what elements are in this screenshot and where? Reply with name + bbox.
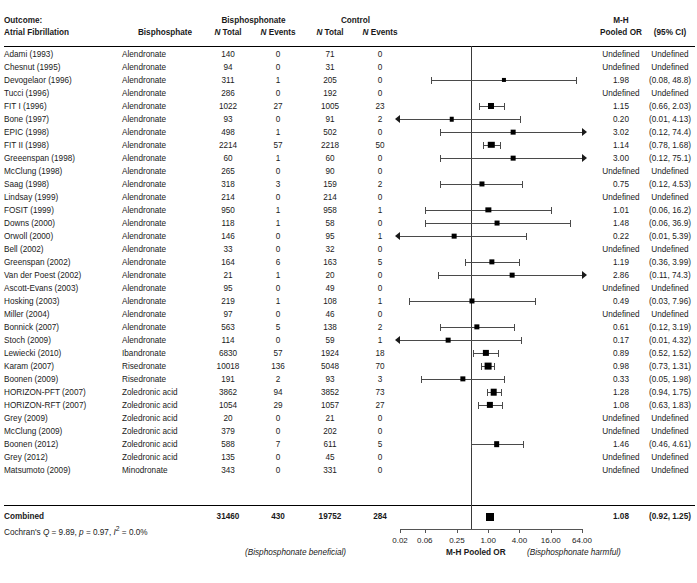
cell-b-events: 0 (254, 89, 302, 99)
cell-or: 1.08 (598, 401, 644, 411)
cell-c-total: 138 (307, 323, 353, 333)
cell-b-total: 1022 (205, 102, 251, 112)
cell-or: 0.98 (598, 362, 644, 372)
effect-estimate-marker (487, 402, 493, 408)
cell-or: 1.28 (598, 388, 644, 398)
forest-row (400, 296, 582, 307)
cell-c-total: 60 (307, 154, 353, 164)
cell-c-events: 0 (356, 414, 404, 424)
summary-effect-marker (486, 513, 494, 521)
cell-drug: Zoledronic acid (122, 440, 208, 450)
effect-estimate-marker (461, 376, 466, 381)
x-tick (425, 529, 426, 533)
cell-or: Undefined (598, 414, 644, 424)
cell-c-events: 2 (356, 180, 404, 190)
forest-row (400, 231, 582, 242)
col-header-ci: (95% CI) (645, 28, 695, 38)
cell-ci: (0.01, 5.39) (645, 232, 695, 242)
cell-c-total: 3852 (307, 388, 353, 398)
effect-estimate-marker (495, 221, 500, 226)
cell-c-total: 108 (307, 297, 353, 307)
cell-drug: Alendronate (122, 245, 208, 255)
cell-ci: (0.06, 36.9) (645, 219, 695, 229)
col-header-bisph-nevents: N Events (254, 28, 302, 38)
cell-drug: Alendronate (122, 271, 208, 281)
cell-drug: Alendronate (122, 323, 208, 333)
cell-c-events: 0 (356, 219, 404, 229)
ci-cap-right (514, 324, 515, 331)
ci-cap-left (478, 402, 479, 409)
cell-ci: (0.66, 2.03) (645, 102, 695, 112)
cell-or: Undefined (598, 193, 644, 203)
forest-row-summary (400, 511, 582, 522)
effect-estimate-marker (511, 156, 516, 161)
cell-or: Undefined (598, 167, 644, 177)
forest-row (400, 127, 582, 138)
cell-ci: (0.03, 7.96) (645, 297, 695, 307)
cell-c-events: 3 (356, 375, 404, 385)
cell-b-total: 343 (205, 466, 251, 476)
col-header-bisphosphate: Bisphosphate (122, 28, 208, 38)
forest-row (400, 140, 582, 151)
col-header-control-nevents: N Events (356, 28, 404, 38)
cell-b-total: 286 (205, 89, 251, 99)
cell-b-total: 33 (205, 245, 251, 255)
col-header-control-ntotal: N Total (307, 28, 353, 38)
cell-or: 1.15 (598, 102, 644, 112)
cell-b-events: 0 (254, 115, 302, 125)
cell-drug: Alendronate (122, 258, 208, 268)
cell-drug: Alendronate (122, 50, 208, 60)
cell-ci: Undefined (645, 310, 695, 320)
cell-drug: Zoledronic acid (122, 453, 208, 463)
cell-or: Undefined (598, 284, 644, 294)
ci-cap-left (431, 77, 432, 84)
forest-row (400, 75, 582, 86)
effect-estimate-marker (489, 259, 494, 264)
cell-c-total: 163 (307, 258, 353, 268)
cell-c-events: 0 (356, 427, 404, 437)
cell-c-events: 0 (356, 154, 404, 164)
cell-or: 2.86 (598, 271, 644, 281)
cell-b-total: 311 (205, 76, 251, 86)
cell-b-total: 1054 (205, 401, 251, 411)
cell-b-events: 1 (254, 76, 302, 86)
cell-study: Bonnick (2007) (4, 323, 120, 333)
effect-estimate-marker (488, 103, 494, 109)
cell-b-total: 10018 (205, 362, 251, 372)
effect-estimate-marker (474, 324, 479, 329)
cell-c-total: 214 (307, 193, 353, 203)
ci-cap-right (500, 142, 501, 149)
cell-drug: Alendronate (122, 167, 208, 177)
ci-cap-right (522, 181, 523, 188)
ci-arrow-left-icon (395, 232, 400, 240)
cell-c-total: 202 (307, 427, 353, 437)
ci-cap-left (473, 350, 474, 357)
cell-b-events: 3 (254, 180, 302, 190)
cell-drug: Alendronate (122, 76, 208, 86)
cell-b-events: 57 (254, 141, 302, 151)
cell-ci: (0.05, 1.98) (645, 375, 695, 385)
cell-or: 0.33 (598, 375, 644, 385)
cell-b-events: 0 (254, 50, 302, 60)
effect-estimate-marker (450, 117, 455, 122)
cell-b-events: 0 (254, 63, 302, 73)
cell-study: Chesnut (1995) (4, 63, 120, 73)
forest-row (400, 374, 582, 385)
ci-arrow-right-icon (582, 154, 587, 162)
ci-cap-right (551, 207, 552, 214)
cell-c-events: 0 (356, 50, 404, 60)
ci-cap-right (523, 441, 524, 448)
cell-b-events: 0 (254, 310, 302, 320)
cell-drug: Alendronate (122, 102, 208, 112)
cell-b-total: 146 (205, 232, 251, 242)
x-tick (519, 529, 520, 533)
ci-arrow-left-icon (395, 115, 400, 123)
cell-b-events: 0 (254, 232, 302, 242)
cell-study: Grey (2012) (4, 453, 120, 463)
cell-drug: Alendronate (122, 115, 208, 125)
x-axis-line (400, 529, 582, 530)
cell-or: Undefined (598, 245, 644, 255)
cell-ci: (0.36, 3.99) (645, 258, 695, 268)
x-tick-label: 0.25 (449, 536, 465, 545)
x-tick-label: 0.06 (417, 536, 433, 545)
